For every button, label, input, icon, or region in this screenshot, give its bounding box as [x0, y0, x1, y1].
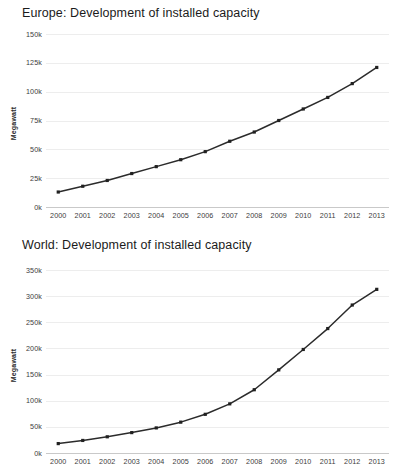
- series-line: [0, 232, 397, 475]
- plot-area-europe: 0k25k50k75k100k125k150kMegawatt200020012…: [0, 0, 397, 232]
- plot-area-world: 0k50k100k150k200k250k300k350kMegawatt200…: [0, 232, 397, 475]
- chart-europe: Europe: Development of installed capacit…: [0, 0, 397, 232]
- chart-world: World: Development of installed capacity…: [0, 232, 397, 475]
- series-line: [0, 0, 397, 243]
